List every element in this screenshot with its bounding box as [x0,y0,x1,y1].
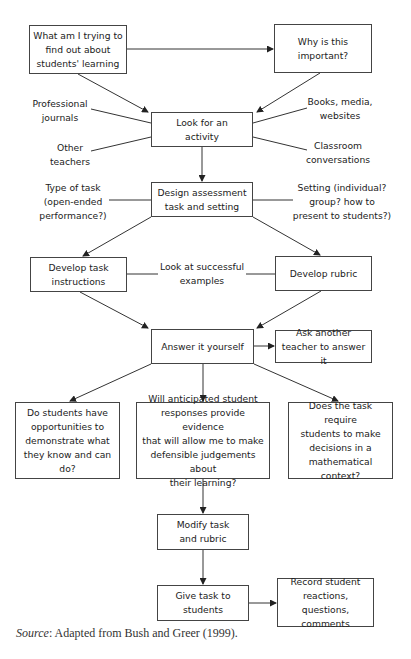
node-q-context-text: Does the task require students to make d… [292,399,389,483]
node-develop-instructions: Develop task instructions [30,257,127,292]
node-question: What am I trying to find out about stude… [29,25,127,74]
source-caption: Source: Adapted from Bush and Greer (199… [16,626,238,641]
node-record-reactions: Record student reactions, questions, com… [277,578,374,627]
node-ask-text: Ask another teacher to answer it [279,326,368,368]
source-prefix: Source [16,626,49,640]
node-question-text: What am I trying to find out about stude… [33,29,122,71]
node-why-text: Why is this important? [298,35,348,63]
label-setting: Setting (individual? group? how to prese… [292,181,392,223]
node-ask-another-teacher: Ask another teacher to answer it [275,330,372,363]
node-modify-text: Modify task and rubric [177,518,230,546]
label-classroom-conversations: Classroom conversations [303,139,373,167]
node-dev-instructions-text: Develop task instructions [48,261,108,289]
node-dev-rubric-text: Develop rubric [290,267,358,281]
node-q-opportunities-text: Do students have opportunities to demons… [24,406,111,476]
node-look-for-activity: Look for an activity [151,112,253,147]
node-answer-yourself: Answer it yourself [151,329,254,364]
node-develop-rubric: Develop rubric [275,256,372,291]
label-books-media: Books, media, websites [305,95,375,123]
node-q-context: Does the task require students to make d… [288,402,393,479]
node-design-task: Design assessment task and setting [151,182,253,217]
node-why-important: Why is this important? [274,24,372,73]
node-record-text: Record student reactions, questions, com… [281,575,370,631]
node-give-text: Give task to students [175,589,230,617]
node-q-evidence: Will anticipated student responses provi… [136,402,270,479]
node-q-evidence-text: Will anticipated student responses provi… [140,392,266,490]
source-text: : Adapted from Bush and Greer (1999). [49,626,238,640]
node-look-text: Look for an activity [176,116,227,144]
label-professional-journals: Professional journals [30,97,90,125]
node-answer-text: Answer it yourself [161,340,244,354]
label-other-teachers: Other teachers [50,141,90,169]
label-successful-examples: Look at successful examples [157,260,247,288]
node-give-task: Give task to students [157,585,249,621]
node-design-text: Design assessment task and setting [157,186,246,214]
node-modify: Modify task and rubric [157,514,249,550]
node-q-opportunities: Do students have opportunities to demons… [15,402,120,479]
label-type-of-task: Type of task (open-ended performance?) [38,181,108,223]
